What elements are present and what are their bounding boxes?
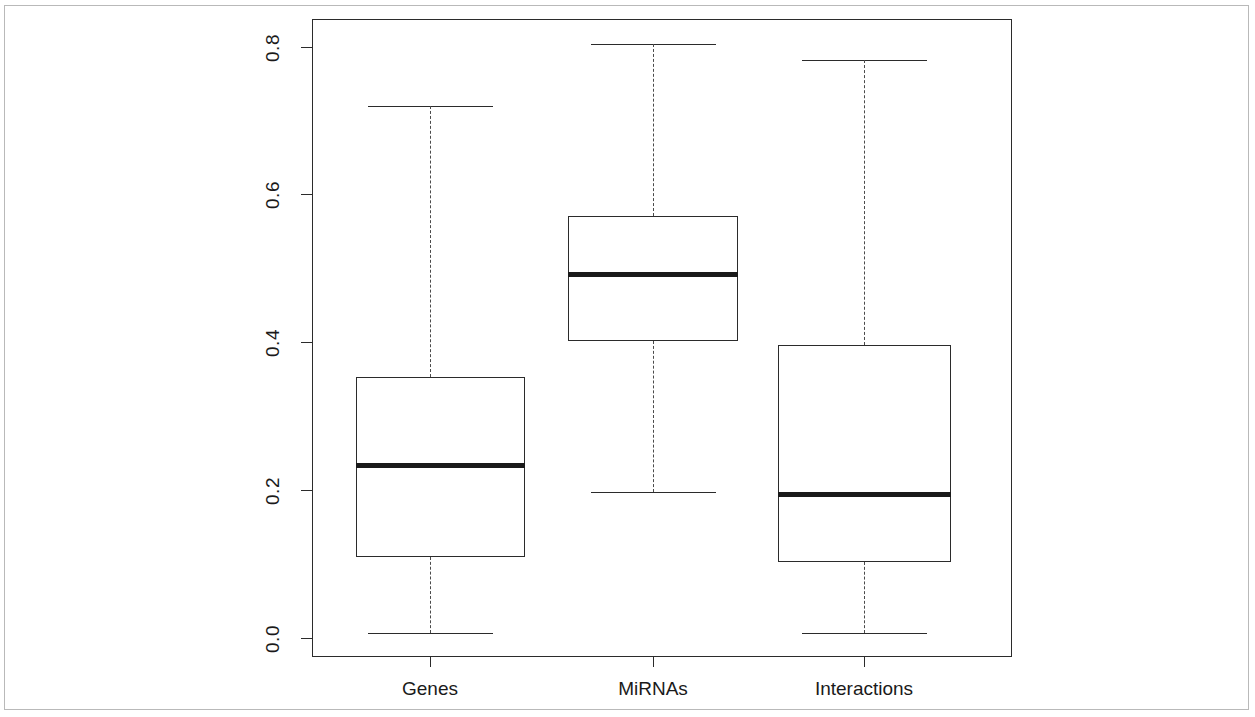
- box-interactions: [778, 345, 951, 562]
- median-line-interactions: [778, 492, 951, 497]
- whisker-stem-upper-interactions: [864, 60, 865, 345]
- median-line-genes: [356, 463, 525, 468]
- x-tick-label-genes: Genes: [402, 678, 458, 700]
- median-line-mirnas: [568, 272, 738, 277]
- whisker-stem-lower-interactions: [864, 562, 865, 633]
- y-tick-1: [301, 490, 312, 491]
- y-tick-label-2: 0.4: [262, 321, 284, 365]
- plot-area: 0.0 0.2 0.4 0.6 0.8 Genes MiRNAs Interac…: [312, 19, 1012, 657]
- y-tick-2: [301, 342, 312, 343]
- x-tick-genes: [430, 656, 431, 667]
- y-tick-0: [301, 638, 312, 639]
- y-tick-3: [301, 194, 312, 195]
- whisker-stem-lower-mirnas: [653, 341, 654, 492]
- whisker-stem-upper-mirnas: [653, 44, 654, 216]
- box-mirnas: [568, 216, 738, 341]
- x-tick-label-interactions: Interactions: [815, 678, 913, 700]
- whisker-stem-lower-genes: [430, 557, 431, 633]
- y-tick-label-4: 0.8: [262, 26, 284, 70]
- x-tick-mirnas: [653, 656, 654, 667]
- whisker-cap-lower-mirnas: [591, 492, 716, 493]
- whisker-cap-lower-genes: [368, 633, 493, 634]
- y-tick-label-0: 0.0: [262, 617, 284, 661]
- figure-alt-text: Box plot comparing distributions for Gen…: [0, 0, 1, 1]
- whisker-stem-upper-genes: [430, 106, 431, 377]
- y-tick-label-3: 0.6: [262, 173, 284, 217]
- boxplot-figure: 0.0 0.2 0.4 0.6 0.8 Genes MiRNAs Interac…: [0, 0, 1255, 717]
- y-tick-label-1: 0.2: [262, 469, 284, 513]
- y-tick-4: [301, 47, 312, 48]
- x-tick-label-mirnas: MiRNAs: [618, 678, 688, 700]
- x-tick-interactions: [864, 656, 865, 667]
- whisker-cap-lower-interactions: [802, 633, 927, 634]
